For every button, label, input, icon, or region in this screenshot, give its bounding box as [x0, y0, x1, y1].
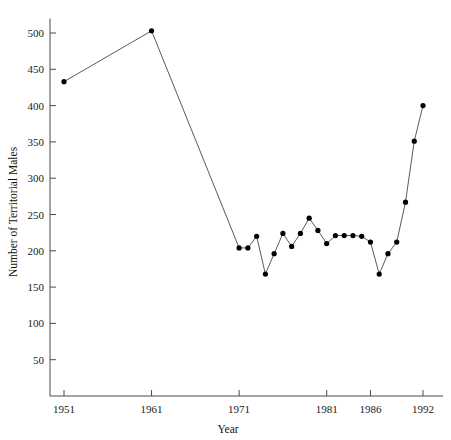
y-tick-label: 100	[28, 317, 45, 329]
line-chart: 50100150200250300350400450500 1951196119…	[0, 0, 451, 440]
y-tick-label: 350	[28, 136, 45, 148]
y-axis-title: Number of Territorial Males	[7, 146, 19, 277]
data-point	[359, 234, 364, 239]
data-point	[289, 244, 294, 249]
x-tick-label: 1971	[228, 403, 250, 415]
y-axis-ticks: 50100150200250300350400450500	[28, 27, 57, 366]
data-point	[61, 79, 66, 84]
y-tick-label: 50	[33, 354, 45, 366]
y-tick-label: 300	[28, 172, 45, 184]
series-line-territorial-males	[64, 31, 423, 274]
data-point	[254, 234, 259, 239]
data-point	[403, 200, 408, 205]
x-tick-label: 1981	[316, 403, 338, 415]
data-point	[385, 251, 390, 256]
data-point	[333, 233, 338, 238]
y-tick-label: 250	[28, 209, 45, 221]
x-tick-label: 1986	[359, 403, 382, 415]
data-point	[298, 231, 303, 236]
data-point	[263, 271, 268, 276]
series-markers	[61, 28, 425, 276]
data-point	[307, 216, 312, 221]
data-point	[272, 251, 277, 256]
data-point	[368, 239, 373, 244]
data-point	[245, 245, 250, 250]
data-point	[342, 233, 347, 238]
data-point	[350, 233, 355, 238]
y-tick-label: 150	[28, 281, 45, 293]
data-point	[280, 231, 285, 236]
y-tick-label: 200	[28, 245, 45, 257]
x-tick-label: 1961	[141, 403, 163, 415]
y-tick-label: 500	[28, 27, 45, 39]
x-tick-label: 1992	[412, 403, 434, 415]
y-tick-label: 400	[28, 100, 45, 112]
data-point	[394, 239, 399, 244]
x-tick-label: 1951	[53, 403, 75, 415]
data-point	[420, 103, 425, 108]
chart-container: 50100150200250300350400450500 1951196119…	[0, 0, 451, 440]
x-axis-ticks: 195119611971198119861992	[53, 390, 434, 415]
data-point	[377, 271, 382, 276]
y-tick-label: 450	[28, 63, 45, 75]
data-point	[412, 139, 417, 144]
data-point	[237, 245, 242, 250]
data-point	[149, 28, 154, 33]
data-point	[315, 228, 320, 233]
data-point	[324, 241, 329, 246]
x-axis-title: Year	[217, 423, 238, 435]
